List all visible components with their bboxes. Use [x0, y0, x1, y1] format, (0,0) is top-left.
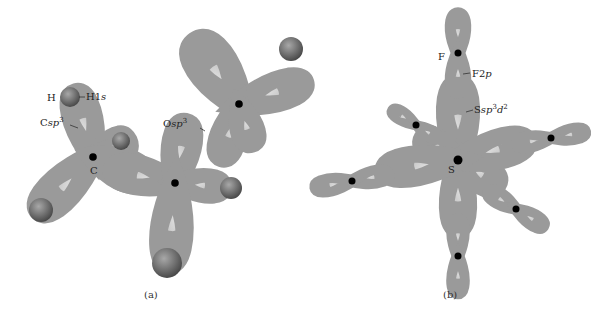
label-c-atom: C: [90, 165, 98, 176]
label-h-atom: H: [47, 92, 56, 103]
fluorine-nucleus: [455, 253, 462, 260]
fluorine-nucleus: [513, 206, 520, 213]
central-nucleus: [171, 179, 179, 187]
substituent-sphere: [279, 37, 303, 61]
label-h1s: H1s: [86, 91, 106, 102]
label-s-atom: S: [448, 164, 455, 175]
substituent-sphere: [152, 248, 182, 278]
caption-b: (b): [443, 289, 457, 300]
substituent-sphere: [220, 177, 242, 199]
label-f-atom: F: [438, 51, 445, 62]
hydrogen-1s-sphere: [60, 87, 80, 107]
substituent-sphere: [29, 198, 53, 222]
label-s-sp3d2: Ssp3d2: [474, 103, 508, 115]
label-f2p: F2p: [472, 68, 492, 79]
fluorine-nucleus: [548, 135, 555, 142]
fluorine-nucleus: [455, 50, 462, 57]
panel-a: H H1s Csp3 C Osp3 (a): [29, 37, 303, 300]
carbon-nucleus: [89, 153, 97, 161]
orbital-diagram: H H1s Csp3 C Osp3 (a): [0, 0, 608, 321]
fluorine-nucleus: [413, 122, 420, 129]
caption-a: (a): [144, 289, 158, 300]
panel-b: F F2p Ssp3d2 S (b): [318, 18, 582, 300]
oxygen-nucleus: [235, 100, 243, 108]
fluorine-nucleus: [349, 178, 356, 185]
substituent-sphere: [112, 132, 130, 150]
label-c-sp3: Csp3: [40, 116, 64, 128]
